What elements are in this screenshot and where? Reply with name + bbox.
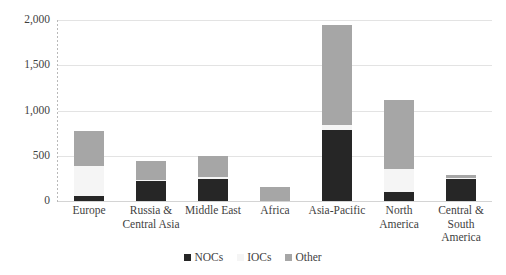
bar-stack — [384, 100, 414, 201]
gridline-0 — [58, 201, 492, 202]
bar-stack — [198, 156, 228, 201]
bar-segment-other — [322, 25, 352, 125]
bar-stack — [322, 25, 352, 201]
bar-segment-iocs — [384, 169, 414, 192]
stacked-bar-chart: 05001,0001,5002,000 EuropeRussia &Centra… — [0, 0, 506, 275]
bar-segment-nocs — [136, 181, 166, 201]
plot-area — [58, 20, 492, 201]
bar-segment-nocs — [322, 130, 352, 201]
chart-legend: NOCsIOCsOther — [0, 252, 506, 264]
bar-stack — [260, 187, 290, 201]
y-tick-label: 1,500 — [24, 60, 50, 72]
x-label-2: Russia &Central Asia — [120, 204, 182, 231]
bar-segment-iocs — [74, 166, 104, 196]
y-tick-label: 500 — [33, 150, 50, 162]
gridline-1000 — [58, 111, 492, 112]
x-label-4: Africa — [244, 204, 306, 218]
bar-segment-other — [384, 100, 414, 169]
y-axis-tick-labels: 05001,0001,5002,000 — [0, 20, 50, 201]
legend-label: NOCs — [194, 252, 223, 264]
y-tick-label: 1,000 — [24, 105, 50, 117]
y-tick-label: 2,000 — [24, 14, 50, 26]
legend-swatch-icon — [184, 254, 191, 261]
bar-stack — [136, 161, 166, 201]
gridline-2000 — [58, 20, 492, 21]
legend-swatch-icon — [285, 254, 292, 261]
bar-segment-other — [74, 131, 104, 166]
legend-label: Other — [295, 252, 321, 264]
bar-segment-other — [260, 187, 290, 201]
x-label-3: Middle East — [182, 204, 244, 218]
x-axis-category-labels: EuropeRussia &Central AsiaMiddle EastAfr… — [58, 204, 492, 250]
legend-item-other[interactable]: Other — [285, 252, 321, 264]
bar-segment-other — [136, 161, 166, 180]
bar-segment-nocs — [384, 192, 414, 201]
x-label-6: NorthAmerica — [368, 204, 430, 231]
bar-stack — [446, 175, 476, 201]
bar-segment-other — [198, 156, 228, 178]
bar-segment-nocs — [446, 179, 476, 201]
x-label-5: Asia-Pacific — [306, 204, 368, 218]
x-label-7: Central &SouthAmerica — [430, 204, 492, 245]
x-label-1: Europe — [58, 204, 120, 218]
legend-label: IOCs — [247, 252, 271, 264]
legend-item-nocs[interactable]: NOCs — [184, 252, 223, 264]
legend-item-iocs[interactable]: IOCs — [237, 252, 271, 264]
bar-stack — [74, 131, 104, 201]
legend-swatch-icon — [237, 254, 244, 261]
gridline-500 — [58, 156, 492, 157]
bar-segment-nocs — [198, 179, 228, 201]
gridline-1500 — [58, 65, 492, 66]
y-tick-label: 0 — [44, 195, 50, 207]
bar-segment-nocs — [74, 196, 104, 201]
